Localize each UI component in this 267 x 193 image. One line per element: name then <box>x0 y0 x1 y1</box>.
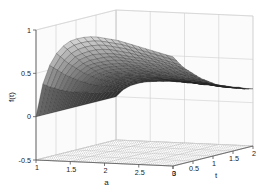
tick-label-a: 1 <box>35 163 39 172</box>
tick-label-t: 1 <box>212 159 216 168</box>
tick-label-z: 0 <box>27 112 31 121</box>
tick-label-a: 1.5 <box>66 165 76 174</box>
axis-title-z: f(t) <box>7 92 16 102</box>
tick-label-a: 2 <box>104 166 108 175</box>
axis-title-a: a <box>104 178 109 187</box>
figure-canvas: -0.500.5111.522.5300.511.52f(t)at <box>0 0 267 193</box>
tick-label-t: 1.5 <box>229 154 239 163</box>
tick-label-z: 1 <box>27 26 31 35</box>
surface-plot-3d[interactable]: -0.500.5111.522.5300.511.52f(t)at <box>0 0 267 193</box>
tick-label-t: 0 <box>172 169 176 178</box>
axis-title-t: t <box>215 171 218 180</box>
tick-label-z: 0.5 <box>21 69 31 78</box>
tick-label-t: 0.5 <box>189 164 199 173</box>
tick-label-a: 2.5 <box>135 168 145 177</box>
tick-label-z: -0.5 <box>19 156 31 165</box>
tick-label-t: 2 <box>252 149 256 158</box>
